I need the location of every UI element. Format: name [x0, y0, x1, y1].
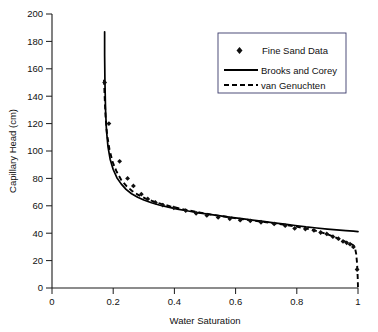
chart-canvas: 020406080100120140160180200 00.20.40.60.… — [0, 0, 378, 332]
series-markers-fine-sand-data — [102, 80, 359, 272]
x-tick-label: 0.8 — [290, 296, 303, 307]
capillary-head-chart: 020406080100120140160180200 00.20.40.60.… — [0, 0, 378, 332]
series-line-van-genuchten — [104, 80, 358, 288]
legend-label-brooks-and-corey: Brooks and Corey — [261, 65, 337, 76]
x-tick-label: 0.4 — [168, 296, 181, 307]
y-tick-label: 180 — [27, 36, 43, 47]
legend-label-van-genuchten: van Genuchten — [261, 80, 325, 91]
y-tick-label: 60 — [32, 200, 43, 211]
data-point-marker — [355, 267, 360, 272]
legend: Fine Sand Data Brooks and Corey van Genu… — [218, 33, 346, 93]
y-tick-label: 20 — [32, 255, 43, 266]
data-point-marker — [117, 159, 122, 164]
x-axis-title: Water Saturation — [170, 315, 241, 326]
data-point-marker — [318, 230, 323, 235]
x-tick-label: 0.6 — [229, 296, 242, 307]
x-tick-label: 1 — [355, 296, 360, 307]
y-tick-label: 120 — [27, 118, 43, 129]
y-tick-label: 140 — [27, 91, 43, 102]
legend-label-fine-sand-data: Fine Sand Data — [262, 45, 329, 56]
data-point-marker — [131, 184, 136, 189]
y-axis-title: Capillary Head (cm) — [7, 109, 18, 193]
y-tick-label: 200 — [27, 8, 43, 19]
y-tick-label: 160 — [27, 63, 43, 74]
data-point-marker — [102, 80, 107, 85]
x-axis-ticks: 00.20.40.60.81 — [49, 288, 360, 307]
data-point-marker — [312, 228, 317, 233]
x-tick-label: 0 — [49, 296, 54, 307]
y-axis-ticks: 020406080100120140160180200 — [27, 8, 52, 293]
y-tick-label: 100 — [27, 145, 43, 156]
data-point-marker — [125, 176, 130, 181]
y-tick-label: 0 — [38, 282, 43, 293]
y-tick-label: 40 — [32, 228, 43, 239]
x-tick-label: 0.2 — [107, 296, 120, 307]
y-tick-label: 80 — [32, 173, 43, 184]
